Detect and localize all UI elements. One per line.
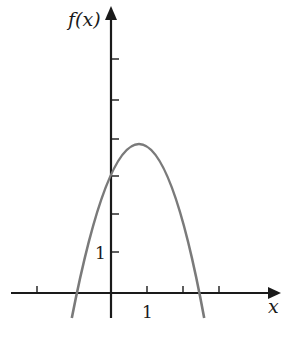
y-ticks: [111, 59, 119, 252]
x-tick-label-1: 1: [142, 302, 153, 322]
axes: [11, 6, 281, 318]
y-axis-arrow-icon: [105, 6, 117, 20]
x-axis-label: x: [268, 295, 279, 317]
y-axis-label: f(x): [66, 8, 101, 30]
function-graph: f(x) x 1 1: [0, 0, 285, 337]
y-tick-label-1: 1: [95, 243, 106, 263]
